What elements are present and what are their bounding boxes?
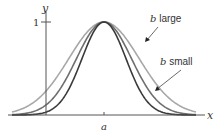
svg-text:b large: b large — [150, 13, 182, 24]
curve-b-small — [12, 22, 196, 115]
annotation-b-large-arrow — [147, 27, 158, 40]
curve-b-medium — [12, 22, 196, 115]
y-tick-label-1: 1 — [33, 17, 39, 28]
x-tick-label-a: a — [101, 121, 107, 132]
annotation-b-small-text: small — [166, 56, 192, 67]
x-axis-label: x — [207, 109, 214, 122]
annotation-b-large: b large — [145, 13, 182, 42]
curves-group — [12, 22, 196, 115]
annotation-b-small-arrow — [157, 70, 181, 89]
annotation-b-large-text: large — [156, 13, 181, 24]
y-axis-label: y — [41, 2, 49, 15]
svg-text:b small: b small — [160, 56, 193, 67]
annotation-b-small: b small — [155, 56, 193, 91]
bell-curves-diagram: y 1 x a b large b small — [0, 0, 221, 133]
